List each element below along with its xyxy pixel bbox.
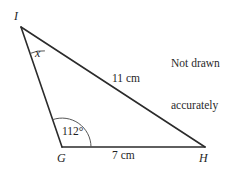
side-length-label-GH: 7 cm bbox=[112, 150, 135, 162]
angle-label-x: x bbox=[35, 47, 40, 59]
note-line-2: accurately bbox=[171, 98, 220, 112]
angle-label-112: 112° bbox=[62, 126, 83, 138]
note-line-1: Not drawn bbox=[171, 56, 220, 70]
side-length-label-IH: 11 cm bbox=[112, 73, 140, 85]
vertex-label-I: I bbox=[14, 10, 18, 22]
vertex-label-H: H bbox=[199, 152, 208, 164]
vertex-label-G: G bbox=[57, 152, 66, 164]
side-I-G bbox=[21, 27, 62, 147]
geometry-figure: I G H x 112° 11 cm 7 cm Not drawn accura… bbox=[0, 0, 244, 175]
not-drawn-accurately-note: Not drawn accurately bbox=[171, 28, 220, 140]
